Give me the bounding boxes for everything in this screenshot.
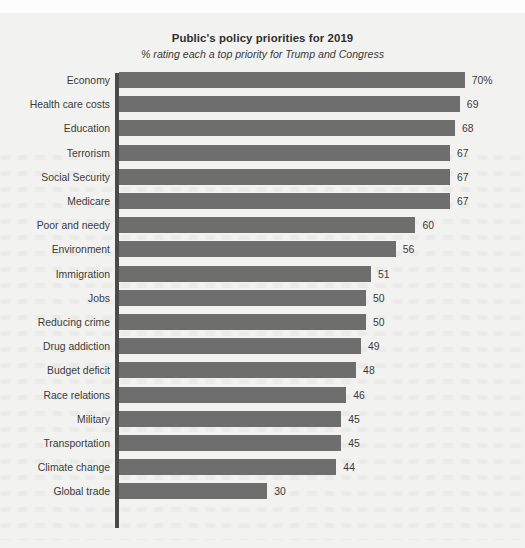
bar-category-label: Reducing crime [5,315,110,330]
bar-track [119,314,366,330]
bar-value-label: 30 [274,484,286,499]
bar-category-label: Economy [5,73,110,88]
chart-title: Public's policy priorities for 2019 [0,31,525,45]
bar-category-label: Climate change [5,460,110,475]
bar-row: Poor and needy60 [0,217,525,241]
bar-chart-plot-area: Economy70%Health care costs69Education68… [0,72,525,532]
bar-fill [119,338,361,354]
bar-fill [119,217,415,233]
bar-value-label: 56 [403,242,415,257]
bar-row: Climate change44 [0,459,525,483]
bar-category-label: Drug addiction [5,339,110,354]
bar-row: Race relations46 [0,387,525,411]
bar-track [119,435,341,451]
bar-row: Education68 [0,120,525,144]
bar-row: Budget deficit48 [0,362,525,386]
bar-value-label: 50 [373,315,385,330]
bar-row: Military45 [0,411,525,435]
bar-row: Global trade30 [0,483,525,507]
bar-fill [119,145,450,161]
bar-category-label: Immigration [5,267,110,282]
bar-track [119,96,460,112]
bar-track [119,290,366,306]
bar-category-label: Terrorism [5,146,110,161]
page-top-edge [0,0,525,13]
bar-track [119,338,361,354]
bar-value-label: 70% [472,73,493,88]
bar-category-label: Race relations [5,388,110,403]
bar-fill [119,120,455,136]
bar-fill [119,483,267,499]
bar-value-label: 60 [422,218,434,233]
bar-row: Jobs50 [0,290,525,314]
chart-subtitle: % rating each a top priority for Trump a… [0,47,525,61]
bar-category-label: Social Security [5,170,110,185]
bar-value-label: 67 [457,194,469,209]
bar-fill [119,241,396,257]
bar-value-label: 67 [457,146,469,161]
bar-row: Health care costs69 [0,96,525,120]
bar-track [119,169,450,185]
bar-track [119,193,450,209]
bar-category-label: Health care costs [5,97,110,112]
bar-value-label: 45 [348,412,360,427]
bar-value-label: 49 [368,339,380,354]
bar-track [119,266,371,282]
bar-category-label: Global trade [5,484,110,499]
bar-fill [119,387,346,403]
bar-track [119,241,396,257]
bar-track [119,145,450,161]
bar-row: Drug addiction49 [0,338,525,362]
bar-fill [119,459,336,475]
bar-track [119,411,341,427]
bar-row: Environment56 [0,241,525,265]
bar-category-label: Transportation [5,436,110,451]
bar-track [119,72,465,88]
bar-row: Reducing crime50 [0,314,525,338]
bar-fill [119,314,366,330]
bar-track [119,459,336,475]
bar-row: Terrorism67 [0,145,525,169]
bar-category-label: Education [5,121,110,136]
bar-fill [119,169,450,185]
bar-fill [119,96,460,112]
bar-value-label: 51 [378,267,390,282]
bar-track [119,120,455,136]
bar-track [119,387,346,403]
bar-track [119,362,356,378]
bar-category-label: Jobs [5,291,110,306]
bar-value-label: 45 [348,436,360,451]
bar-fill [119,266,371,282]
bar-row: Transportation45 [0,435,525,459]
bar-fill [119,362,356,378]
bar-value-label: 48 [363,363,375,378]
chart-page: Public's policy priorities for 2019 % ra… [0,0,525,548]
bar-value-label: 67 [457,170,469,185]
bar-row: Economy70% [0,72,525,96]
bar-category-label: Budget deficit [5,363,110,378]
bar-row: Medicare67 [0,193,525,217]
bar-category-label: Military [5,412,110,427]
bar-row: Immigration51 [0,266,525,290]
bar-fill [119,72,465,88]
bar-track [119,217,415,233]
bar-value-label: 50 [373,291,385,306]
bar-track [119,483,267,499]
bar-fill [119,193,450,209]
bar-value-label: 46 [353,388,365,403]
bar-value-label: 44 [343,460,355,475]
bar-category-label: Environment [5,242,110,257]
bar-value-label: 69 [467,97,479,112]
bar-fill [119,290,366,306]
bar-fill [119,411,341,427]
bar-category-label: Medicare [5,194,110,209]
bar-category-label: Poor and needy [5,218,110,233]
bar-row: Social Security67 [0,169,525,193]
bar-value-label: 68 [462,121,474,136]
chart-header: Public's policy priorities for 2019 % ra… [0,31,525,61]
bar-fill [119,435,341,451]
